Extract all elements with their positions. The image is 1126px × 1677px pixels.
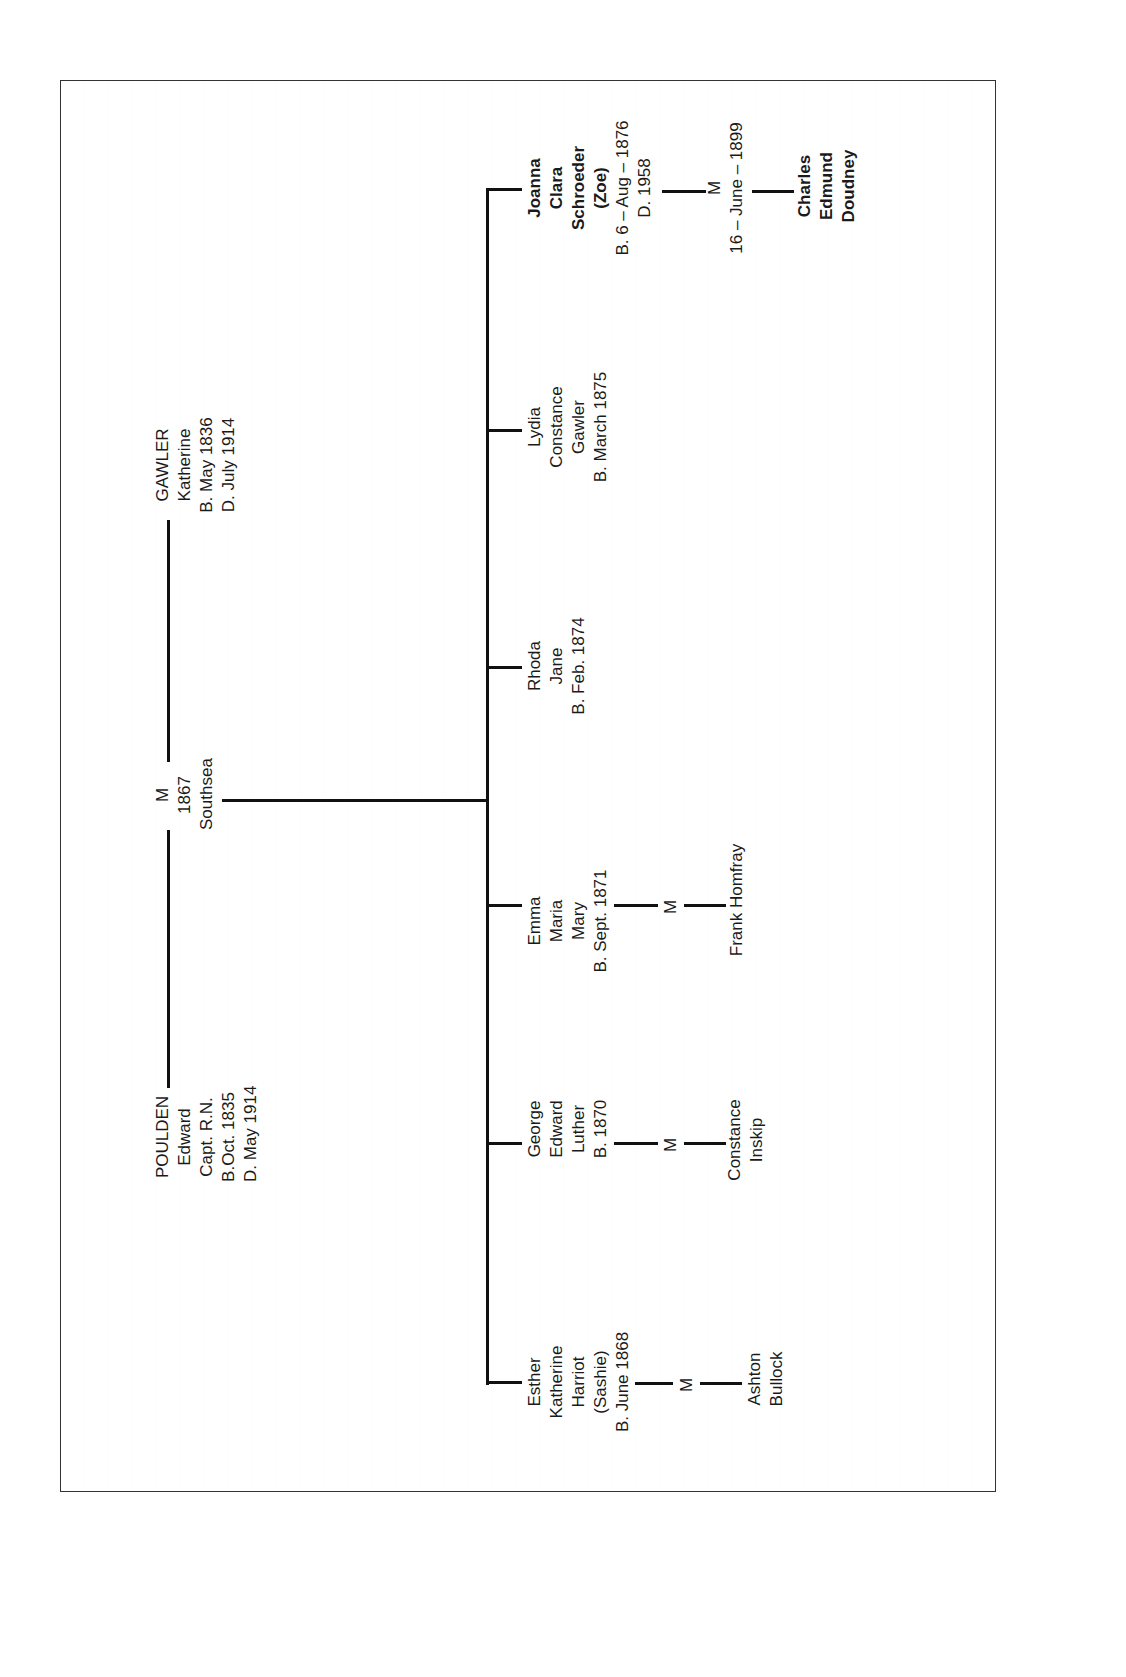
child-line: (Zoe) (590, 108, 612, 268)
child-line: B. 1870 (590, 1074, 612, 1184)
spouse-line: Inskip (746, 1090, 768, 1190)
child-2-marriage-label: M (660, 1138, 682, 1152)
parents-marriage-year: 1867 (174, 760, 196, 830)
children-trunk-line (486, 188, 489, 1385)
child-line: Harriot (568, 1302, 590, 1462)
child-line: Rhoda (524, 606, 546, 726)
spouse-line: Constance (724, 1090, 746, 1190)
spouse-line: Doudney (838, 126, 860, 246)
child-branch-6 (486, 188, 522, 191)
child-line: Maria (546, 856, 568, 986)
spouse-line: Charles (794, 126, 816, 246)
mother-given-name: Katherine (174, 410, 196, 520)
mother-born: B. May 1836 (196, 410, 218, 520)
father-given-name: Edward (174, 1092, 196, 1182)
spouse-line: Ashton (744, 1334, 766, 1424)
child-line: Luther (568, 1074, 590, 1184)
child-line: Lydia (524, 362, 546, 492)
child-branch-5 (486, 429, 522, 432)
child-line: Edward (546, 1074, 568, 1184)
child-line: B. March 1875 (590, 362, 612, 492)
child-6-marriage-line-b (752, 190, 794, 193)
child-line: Constance (546, 362, 568, 492)
child-george: George Edward Luther B. 1870 (524, 1074, 612, 1184)
child-joanna: Joanna Clara Schroeder (Zoe) B. 6 – Aug … (524, 108, 656, 268)
child-6-marriage-date: 16 – June – 1899 (726, 108, 748, 268)
child-line: Emma (524, 856, 546, 986)
child-line: Schroeder (568, 108, 590, 268)
child-branch-2 (486, 1142, 522, 1145)
child-3-marriage-line-a (614, 904, 658, 907)
descent-line (222, 799, 489, 802)
mother-marriage-line (167, 520, 170, 762)
child-line: Gawler (568, 362, 590, 492)
father-born: B.Oct. 1835 (218, 1092, 240, 1182)
child-2-spouse: Constance Inskip (724, 1090, 768, 1190)
child-line: D. 1958 (634, 108, 656, 268)
father-block: POULDEN Edward Capt. R.N. B.Oct. 1835 D.… (152, 1092, 262, 1182)
child-line: Clara (546, 108, 568, 268)
child-lydia: Lydia Constance Gawler B. March 1875 (524, 362, 612, 492)
spouse-line: Frank Homfray (726, 840, 748, 960)
child-1-marriage-line-b (700, 1382, 742, 1385)
father-marriage-line (167, 830, 170, 1088)
spouse-line: Bullock (766, 1334, 788, 1424)
father-surname: POULDEN (152, 1092, 174, 1182)
child-line: B. June 1868 (612, 1302, 634, 1462)
child-3-marriage-label: M (660, 900, 682, 914)
child-line: Mary (568, 856, 590, 986)
parents-marriage-place: Southsea (196, 760, 218, 830)
child-line: George (524, 1074, 546, 1184)
child-emma: Emma Maria Mary B. Sept. 1871 (524, 856, 612, 986)
mother-died: D. July 1914 (218, 410, 240, 520)
mother-block: GAWLER Katherine B. May 1836 D. July 191… (152, 410, 240, 520)
child-3-marriage-line-b (684, 904, 726, 907)
child-line: (Sashie) (590, 1302, 612, 1462)
child-line: Jane (546, 606, 568, 726)
child-1-marriage-line-a (635, 1382, 673, 1385)
child-branch-3 (486, 904, 522, 907)
child-esther: Esther Katherine Harriot (Sashie) B. Jun… (524, 1302, 634, 1462)
child-1-marriage-label: M (676, 1378, 698, 1392)
child-6-marriage-block: M 16 – June – 1899 (704, 108, 748, 268)
child-1-spouse: Ashton Bullock (744, 1334, 788, 1424)
spouse-line: Edmund (816, 126, 838, 246)
child-6-spouse: Charles Edmund Doudney (794, 126, 860, 246)
child-line: B. Feb. 1874 (568, 606, 590, 726)
father-title: Capt. R.N. (196, 1092, 218, 1182)
child-branch-4 (486, 666, 522, 669)
child-line: Katherine (546, 1302, 568, 1462)
child-3-spouse: Frank Homfray (726, 840, 748, 960)
child-line: Esther (524, 1302, 546, 1462)
child-line: B. 6 – Aug – 1876 (612, 108, 634, 268)
child-line: B. Sept. 1871 (590, 856, 612, 986)
parents-marriage-block: M 1867 Southsea (152, 760, 218, 830)
child-2-marriage-line-b (684, 1142, 726, 1145)
child-2-marriage-line-a (614, 1142, 658, 1145)
parents-marriage-label: M (152, 760, 174, 830)
child-line: Joanna (524, 108, 546, 268)
mother-surname: GAWLER (152, 410, 174, 520)
child-branch-1 (486, 1381, 522, 1384)
child-6-marriage-line-a (662, 190, 706, 193)
child-6-marriage-label: M (704, 108, 726, 268)
child-rhoda: Rhoda Jane B. Feb. 1874 (524, 606, 590, 726)
father-died: D. May 1914 (240, 1092, 262, 1182)
